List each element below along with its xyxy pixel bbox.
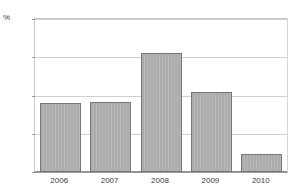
chart-title-clipped: Inflation — [6, 0, 206, 2]
y-axis-unit-label: % — [3, 14, 10, 22]
x-tick-label-2008: 2008 — [135, 176, 185, 185]
bar-2010 — [241, 154, 282, 172]
bar-2006 — [40, 103, 81, 172]
bar-2007 — [90, 102, 131, 172]
bar-slot — [241, 19, 282, 172]
bars — [35, 19, 287, 172]
bar-2009 — [191, 92, 232, 172]
x-tick-label-2007: 2007 — [84, 176, 134, 185]
x-tick-label-2006: 2006 — [34, 176, 84, 185]
y-tick-mark-0 — [32, 172, 35, 173]
x-tick-label-2009: 2009 — [185, 176, 235, 185]
bar-slot — [141, 19, 182, 172]
chart-title-text: Inflation — [6, 0, 206, 2]
bar-2008 — [141, 53, 182, 172]
bar-slot — [40, 19, 81, 172]
bar-slot — [191, 19, 232, 172]
bar-slot — [90, 19, 131, 172]
x-tick-label-2010: 2010 — [236, 176, 286, 185]
plot-area: 05101520 — [34, 18, 288, 173]
bar-chart: Inflation % 05101520 2006200720082009201… — [0, 0, 292, 192]
